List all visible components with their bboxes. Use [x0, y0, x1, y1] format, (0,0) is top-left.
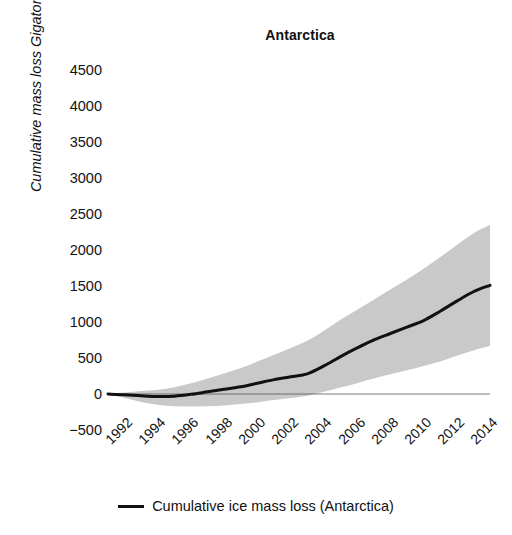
chart-legend: Cumulative ice mass loss (Antarctica) [0, 498, 512, 514]
x-axis-tick-labels: 1992199419961998200020022004200620082010… [0, 436, 512, 496]
legend-line-swatch-icon [118, 505, 144, 508]
legend-label-cumulative-ice-mass-loss: Cumulative ice mass loss (Antarctica) [152, 498, 394, 514]
chart-figure: Antarctica Cumulative mass loss Gigatonn… [0, 0, 512, 535]
